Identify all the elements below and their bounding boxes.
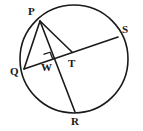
point-label-s: S: [122, 24, 128, 35]
chord-p-q: [24, 21, 40, 69]
point-label-p: P: [28, 6, 35, 17]
point-label-r: R: [71, 116, 79, 127]
point-label-q: Q: [10, 66, 19, 77]
point-label-t: T: [68, 58, 75, 69]
right-angle-marker-at-w: [43, 52, 52, 59]
point-label-w: W: [41, 62, 52, 73]
geometry-figure: P Q S R W T: [0, 0, 143, 131]
segment-p-t: [40, 21, 72, 52]
